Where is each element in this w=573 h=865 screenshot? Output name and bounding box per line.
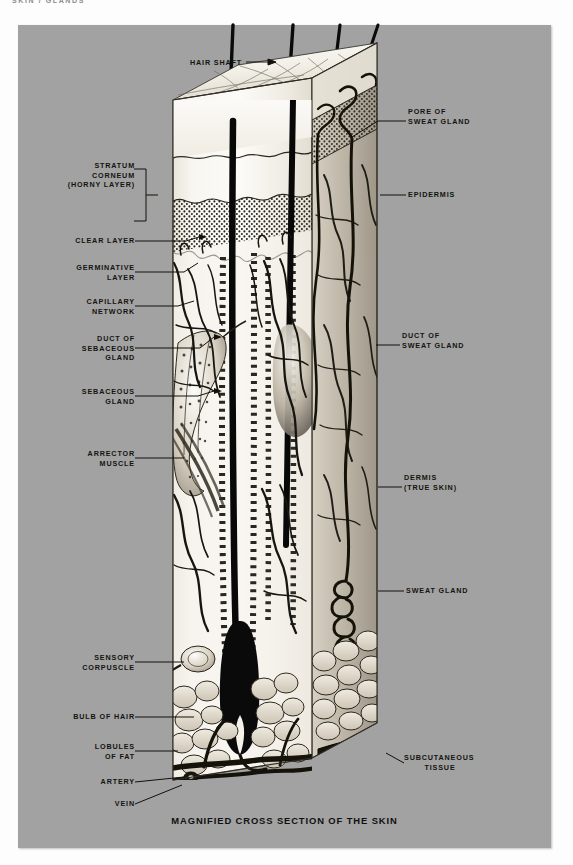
label-line: DERMIS — [404, 473, 457, 483]
fat-lobules-side — [312, 631, 383, 740]
side-face-content — [312, 43, 383, 763]
leader-lines — [134, 121, 406, 804]
leader-arrowheads — [199, 234, 222, 394]
label-line: GERMINATIVE — [18, 263, 135, 273]
label-clear-layer: CLEAR LAYER — [18, 236, 135, 246]
label-vein: VEIN — [18, 799, 135, 809]
label-line: GLAND — [18, 353, 135, 363]
label-subcutaneous-tissue: SUBCUTANEOUS TISSUE — [404, 753, 476, 772]
label-arrector-muscle: ARRECTOR MUSCLE — [18, 449, 135, 468]
label-line: LAYER — [18, 273, 135, 283]
figure-caption: MAGNIFIED CROSS SECTION OF THE SKIN — [18, 815, 551, 826]
front-face-content — [156, 78, 320, 782]
label-line: CAPILLARY — [18, 297, 135, 307]
label-line: MUSCLE — [18, 459, 135, 469]
label-line: DUCT OF — [18, 334, 135, 344]
illustration-plate: STRATUM CORNEUM (HORNY LAYER) CLEAR LAYE… — [18, 25, 551, 848]
label-line: SWEAT GLAND — [402, 341, 464, 351]
label-line: SWEAT GLAND — [406, 586, 468, 596]
sensory-corpuscle-shape — [156, 646, 215, 685]
label-line: (HORNY LAYER) — [18, 180, 135, 190]
label-germinative-layer: GERMINATIVE LAYER — [18, 263, 135, 282]
label-duct-of-sweat-gland: DUCT OF SWEAT GLAND — [402, 331, 464, 350]
page: SKIN / GLANDS — [0, 0, 573, 865]
label-pore-of-sweat-gland: PORE OF SWEAT GLAND — [408, 107, 470, 126]
label-line: TISSUE — [404, 763, 476, 773]
label-line: (TRUE SKIN) — [404, 483, 457, 493]
label-line: GLAND — [18, 397, 135, 407]
label-line: ARTERY — [18, 777, 135, 787]
hair-shaft-arrow — [246, 59, 276, 65]
label-line: NETWORK — [18, 307, 135, 317]
label-hair-shaft: HAIR SHAFT — [118, 58, 242, 68]
label-lobules-of-fat: LOBULES OF FAT — [18, 742, 135, 761]
label-line: CLEAR LAYER — [18, 236, 135, 246]
label-line: PORE OF — [408, 107, 470, 117]
sebaceous-gland-shape — [173, 321, 246, 496]
label-artery: ARTERY — [18, 777, 135, 787]
label-line: SEBACEOUS — [18, 387, 135, 397]
subcutaneous-vessel — [318, 733, 380, 763]
label-line: SEBACEOUS — [18, 344, 135, 354]
label-line: EPIDERMIS — [408, 190, 455, 200]
label-sweat-gland: SWEAT GLAND — [406, 586, 468, 596]
label-stratum-corneum: STRATUM CORNEUM (HORNY LAYER) — [18, 161, 135, 190]
label-line: CORNEUM — [18, 171, 135, 181]
skin-cross-section-illustration — [18, 25, 551, 848]
label-line: HAIR SHAFT — [190, 58, 242, 67]
label-line: SUBCUTANEOUS — [404, 753, 476, 763]
arrector-muscle-shape — [172, 423, 224, 517]
label-duct-of-sebaceous-gland: DUCT OF SEBACEOUS GLAND — [18, 334, 135, 363]
label-line: OF FAT — [18, 752, 135, 762]
label-line: CORPUSCLE — [18, 663, 135, 673]
hair-shafts — [229, 25, 378, 121]
label-line: SENSORY — [18, 653, 135, 663]
artery-vein-front — [168, 719, 318, 781]
label-bulb-of-hair: BULB OF HAIR — [18, 712, 135, 722]
fat-lobules-front — [170, 673, 309, 775]
label-sebaceous-gland: SEBACEOUS GLAND — [18, 387, 135, 406]
label-sensory-corpuscle: SENSORY CORPUSCLE — [18, 653, 135, 672]
sweat-duct-coil — [318, 74, 376, 139]
label-capillary-network: CAPILLARY NETWORK — [18, 297, 135, 316]
capillary-network-front — [174, 232, 308, 633]
label-line: ARRECTOR — [18, 449, 135, 459]
running-header: SKIN / GLANDS — [12, 0, 85, 4]
label-dermis: DERMIS (TRUE SKIN) — [404, 473, 457, 492]
label-line: LOBULES — [18, 742, 135, 752]
label-line: BULB OF HAIR — [18, 712, 135, 722]
sweat-gland-coil — [332, 581, 356, 655]
skin-furrows — [178, 49, 376, 101]
label-line: SWEAT GLAND — [408, 117, 470, 127]
label-epidermis: EPIDERMIS — [408, 190, 455, 200]
label-line: VEIN — [18, 799, 135, 809]
label-line: DUCT OF — [402, 331, 464, 341]
label-line: STRATUM — [18, 161, 135, 171]
